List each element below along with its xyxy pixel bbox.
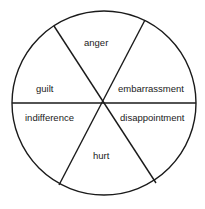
segment-label-hurt: hurt [93,151,109,161]
segment-label-indifference: indifference [25,113,74,123]
segment-label-anger: anger [84,38,108,48]
segment-label-embarrassment: embarrassment [118,84,184,94]
segment-label-guilt: guilt [36,84,53,94]
segment-label-disappointment: disappointment [120,113,184,123]
emotion-wheel [0,0,205,209]
